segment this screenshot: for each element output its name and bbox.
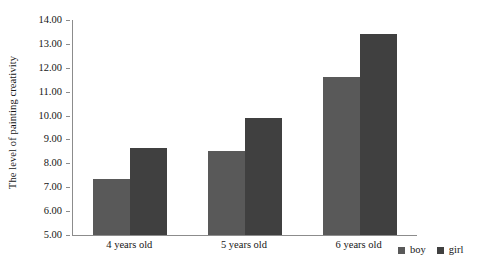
bar-boy-5-years-old [208, 151, 245, 235]
y-axis-tick-label: 5.00 [44, 230, 62, 241]
y-axis-tick-labels: 14.0013.0012.0011.0010.009.008.007.006.0… [26, 14, 70, 241]
bar-group [93, 20, 167, 235]
bar-girl-5-years-old [245, 118, 282, 235]
y-axis-title-text: The level of painting creativity [8, 56, 19, 189]
chart-legend: boygirl [398, 245, 463, 256]
legend-swatch-icon [437, 247, 444, 254]
legend-swatch-icon [398, 247, 405, 254]
bar-girl-6-years-old [360, 34, 397, 235]
legend-label: boy [410, 245, 426, 256]
y-axis-tick-mark [66, 44, 70, 45]
y-axis-tick-mark [66, 235, 70, 236]
y-axis-tick-mark [66, 163, 70, 164]
x-axis-tick-label: 5 years old [189, 239, 299, 250]
bar-boy-6-years-old [323, 77, 360, 235]
y-axis-tick-label: 9.00 [44, 134, 62, 145]
bar-chart: The level of painting creativity 14.0013… [0, 0, 487, 271]
y-axis-tick-mark [66, 139, 70, 140]
y-axis-tick-label: 6.00 [44, 206, 62, 217]
x-axis-tick-label: 4 years old [74, 239, 184, 250]
y-axis-tick-mark [66, 187, 70, 188]
y-axis-tick-mark [66, 211, 70, 212]
y-axis-tick-mark [66, 20, 70, 21]
y-axis-tick-label: 11.00 [39, 86, 62, 97]
y-axis-tick-label: 8.00 [44, 158, 62, 169]
y-axis-tick-label: 13.00 [38, 39, 62, 50]
y-axis-tick-mark [66, 92, 70, 93]
bar-group [323, 20, 397, 235]
bar-boy-4-years-old [93, 179, 130, 235]
y-axis-tick-mark [66, 116, 70, 117]
legend-label: girl [449, 245, 464, 256]
y-axis-tick-label: 12.00 [38, 63, 62, 74]
bars-layer [73, 20, 417, 235]
y-axis-title: The level of painting creativity [0, 0, 26, 245]
legend-item-boy: boy [398, 245, 426, 256]
y-axis-tick-mark [66, 68, 70, 69]
y-axis-tick-label: 10.00 [38, 110, 62, 121]
bar-group [208, 20, 282, 235]
bar-girl-4-years-old [130, 148, 167, 235]
plot-area [72, 20, 417, 236]
legend-item-girl: girl [437, 245, 464, 256]
y-axis-tick-label: 14.00 [38, 15, 62, 26]
y-axis-tick-label: 7.00 [44, 182, 62, 193]
x-axis-tick-labels: 4 years old5 years old6 years old [72, 239, 416, 257]
